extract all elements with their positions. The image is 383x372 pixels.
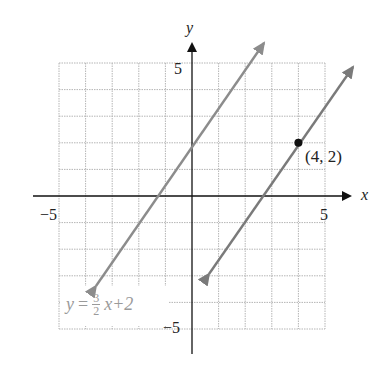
y-min-tick-label: −5 [163, 319, 180, 337]
point-4-2 [294, 139, 302, 147]
fraction-denominator: 2 [93, 305, 99, 317]
equation-label: y = 3 2 x+2 [66, 292, 133, 317]
x-axis-label: x [361, 186, 368, 204]
equation-y: y [66, 294, 74, 315]
equation-rest: x+2 [104, 294, 133, 315]
equation-equals: = [78, 294, 88, 315]
line-parallel-through-4-2 [209, 67, 353, 274]
coordinate-plane [0, 0, 383, 372]
x-min-tick-label: −5 [40, 206, 57, 224]
equation-fraction: 3 2 [92, 292, 100, 317]
x-max-tick-label: 5 [320, 206, 328, 224]
y-max-tick-label: 5 [174, 60, 182, 78]
point-label: (4, 2) [305, 147, 342, 167]
y-axis-label: y [186, 19, 193, 37]
